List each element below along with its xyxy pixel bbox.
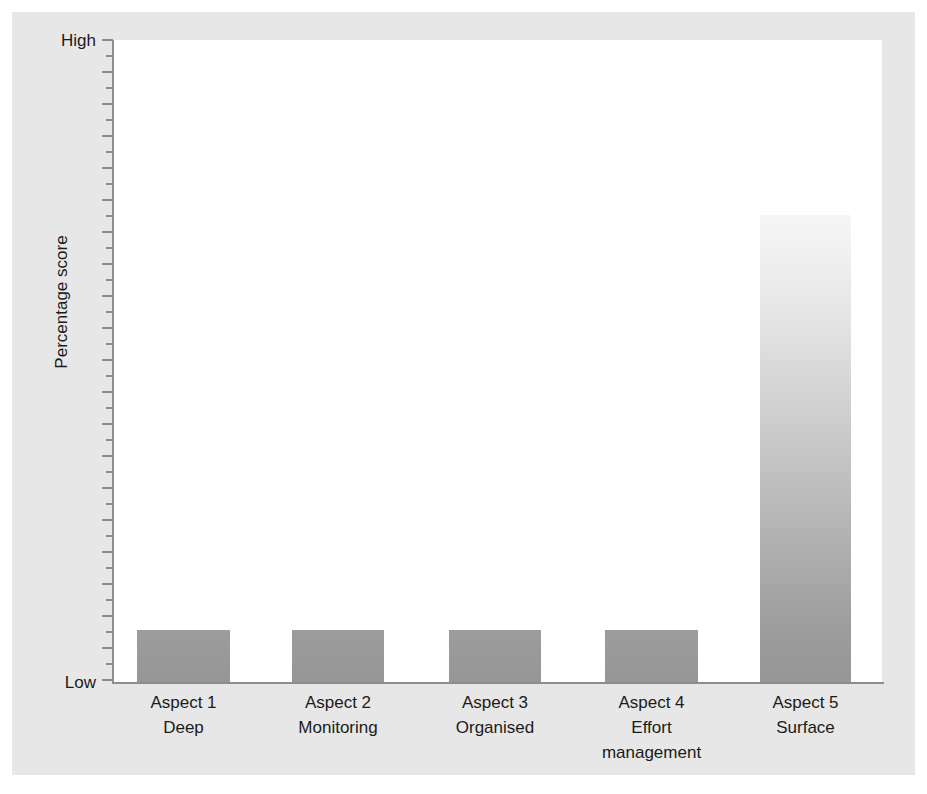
y-axis-minor-tick [106, 55, 113, 57]
figure-panel: High Low Percentage score Aspect 1DeepAs… [12, 12, 915, 775]
y-axis-minor-tick [106, 375, 113, 377]
y-axis-minor-tick [106, 151, 113, 153]
y-axis-minor-tick [106, 599, 113, 601]
y-axis-minor-tick [106, 407, 113, 409]
y-axis-minor-tick [106, 535, 113, 537]
y-axis-major-tick [102, 295, 113, 297]
y-axis-major-tick [102, 679, 113, 681]
y-axis-major-tick [102, 583, 113, 585]
y-axis-minor-tick [106, 311, 113, 313]
x-axis-line [112, 682, 884, 684]
y-axis-major-tick [102, 391, 113, 393]
y-axis-major-tick [102, 103, 113, 105]
y-axis-major-tick [102, 519, 113, 521]
bar-2 [292, 630, 384, 682]
y-axis-major-tick [102, 71, 113, 73]
bar-5 [760, 215, 851, 682]
y-axis-minor-tick [106, 247, 113, 249]
y-axis-major-tick [102, 199, 113, 201]
y-axis-minor-tick [106, 471, 113, 473]
y-axis-minor-tick [106, 183, 113, 185]
x-axis-label-3: Aspect 3Organised [410, 690, 580, 740]
x-axis-label-subtitle: Surface [721, 715, 891, 740]
y-axis-major-tick [102, 359, 113, 361]
x-axis-label-subtitle: Deep [99, 715, 269, 740]
y-axis-title: Percentage score [52, 212, 72, 392]
y-axis-minor-tick [106, 503, 113, 505]
y-axis-minor-tick [106, 343, 113, 345]
y-axis-major-tick [102, 487, 113, 489]
y-axis-major-tick [102, 231, 113, 233]
y-axis-major-tick [102, 551, 113, 553]
x-axis-label-aspect: Aspect 4 [567, 690, 737, 715]
bar-4 [605, 630, 698, 682]
bar-fill [605, 630, 698, 682]
y-axis-minor-tick [106, 279, 113, 281]
y-axis-minor-tick [106, 87, 113, 89]
y-axis-minor-tick [106, 567, 113, 569]
y-axis-major-tick [102, 615, 113, 617]
y-axis-major-tick [102, 135, 113, 137]
y-axis-major-tick [102, 167, 113, 169]
x-axis-label-5: Aspect 5Surface [721, 690, 891, 740]
y-axis-major-tick [102, 455, 113, 457]
bar-1 [137, 630, 230, 682]
x-axis-label-subtitle: Organised [410, 715, 580, 740]
x-axis-label-1: Aspect 1Deep [99, 690, 269, 740]
bar-fill [760, 215, 851, 682]
x-axis-label-2: Aspect 2Monitoring [253, 690, 423, 740]
x-axis-label-subtitle: Effortmanagement [567, 715, 737, 765]
bar-3 [449, 630, 541, 682]
y-axis-major-tick [102, 263, 113, 265]
bar-fill [449, 630, 541, 682]
x-axis-label-aspect: Aspect 5 [721, 690, 891, 715]
bar-fill [137, 630, 230, 682]
y-axis-major-tick [102, 327, 113, 329]
y-axis-minor-tick [106, 663, 113, 665]
y-axis-low-label: Low [16, 674, 96, 691]
y-axis-minor-tick [106, 631, 113, 633]
y-axis-major-tick [102, 647, 113, 649]
y-axis-major-tick [102, 423, 113, 425]
bar-fill [292, 630, 384, 682]
x-axis-label-subtitle: Monitoring [253, 715, 423, 740]
y-axis-high-label: High [16, 32, 96, 49]
y-axis-minor-tick [106, 215, 113, 217]
x-axis-label-aspect: Aspect 3 [410, 690, 580, 715]
y-axis-minor-tick [106, 439, 113, 441]
x-axis-label-4: Aspect 4Effortmanagement [567, 690, 737, 765]
y-axis-minor-tick [106, 119, 113, 121]
y-axis-major-tick [102, 39, 113, 41]
x-axis-label-aspect: Aspect 2 [253, 690, 423, 715]
x-axis-label-aspect: Aspect 1 [99, 690, 269, 715]
